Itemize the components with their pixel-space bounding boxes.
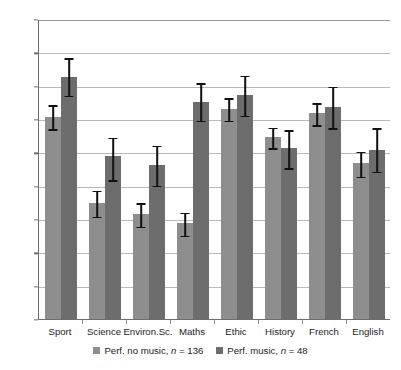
error-bar-cap-lower bbox=[49, 129, 58, 131]
bar bbox=[133, 214, 149, 319]
bar bbox=[89, 203, 105, 319]
x-axis-category-label: English bbox=[352, 326, 383, 337]
error-bar bbox=[272, 128, 274, 149]
x-axis-tick-mark bbox=[258, 320, 259, 324]
bar bbox=[221, 109, 237, 319]
legend-label: Perf. music, n = 48 bbox=[227, 345, 307, 356]
bar bbox=[309, 113, 325, 319]
error-bar-cap-lower bbox=[269, 148, 278, 150]
x-axis-category-label: Sport bbox=[49, 326, 72, 337]
error-bar-cap-lower bbox=[313, 125, 322, 127]
x-axis-category-label: Maths bbox=[179, 326, 205, 337]
error-bar-cap-upper bbox=[285, 130, 294, 132]
y-axis-tick-mark bbox=[34, 186, 38, 187]
y-axis-tick-mark bbox=[34, 219, 38, 220]
bar bbox=[281, 148, 297, 319]
error-bar-cap-lower bbox=[241, 116, 250, 118]
error-bar-cap-lower bbox=[329, 128, 338, 130]
gridline bbox=[39, 20, 390, 21]
bar bbox=[325, 107, 341, 320]
bar bbox=[237, 95, 253, 319]
error-bar-cap-upper bbox=[313, 103, 322, 105]
error-bar bbox=[288, 130, 290, 168]
error-bar-cap-lower bbox=[137, 227, 146, 229]
error-bar bbox=[156, 146, 158, 186]
plot-area bbox=[38, 20, 390, 320]
error-bar-cap-lower bbox=[225, 121, 234, 123]
x-axis-category-label: History bbox=[265, 326, 295, 337]
error-bar-cap-upper bbox=[197, 83, 206, 85]
error-bar-cap-lower bbox=[373, 172, 382, 174]
error-bar-cap-upper bbox=[153, 146, 162, 148]
error-bar-cap-upper bbox=[65, 58, 74, 60]
y-axis-tick-mark bbox=[34, 286, 38, 287]
x-axis-tick-mark bbox=[82, 320, 83, 324]
error-bar-cap-lower bbox=[153, 186, 162, 188]
legend-entry: Perf. no music, n = 136 bbox=[93, 345, 203, 356]
error-bar bbox=[332, 87, 334, 129]
x-axis-tick-mark bbox=[126, 320, 127, 324]
legend-swatch bbox=[216, 347, 223, 354]
bar bbox=[369, 150, 385, 319]
x-axis-tick-mark bbox=[214, 320, 215, 324]
error-bar-cap-upper bbox=[373, 128, 382, 130]
error-bar-cap-upper bbox=[241, 76, 250, 78]
error-bar bbox=[244, 76, 246, 116]
error-bar-cap-lower bbox=[285, 168, 294, 170]
chart-legend: Perf. no music, n = 136Perf. music, n = … bbox=[0, 345, 401, 356]
error-bar bbox=[96, 191, 98, 217]
y-axis-tick-mark bbox=[34, 19, 38, 20]
x-axis-tick-mark bbox=[346, 320, 347, 324]
error-bar-cap-lower bbox=[65, 96, 74, 98]
error-bar bbox=[68, 58, 70, 96]
error-bar-cap-lower bbox=[109, 180, 118, 182]
x-axis-tick-mark bbox=[302, 320, 303, 324]
bar bbox=[193, 102, 209, 320]
error-bar-cap-upper bbox=[137, 203, 146, 205]
x-axis-category-label: French bbox=[309, 326, 339, 337]
error-bar-cap-lower bbox=[181, 236, 190, 238]
bar-chart: 88.086.084.082.080.078.076.074.072.070.0… bbox=[0, 0, 401, 370]
error-bar-cap-lower bbox=[93, 217, 102, 219]
gridline bbox=[39, 53, 390, 54]
error-bar-cap-upper bbox=[181, 213, 190, 215]
bar bbox=[45, 117, 61, 320]
error-bar-cap-upper bbox=[329, 87, 338, 89]
error-bar bbox=[52, 105, 54, 129]
y-axis-tick-mark bbox=[34, 319, 38, 320]
error-bar-cap-upper bbox=[357, 152, 366, 154]
error-bar-cap-upper bbox=[93, 191, 102, 193]
bar bbox=[353, 163, 369, 319]
error-bar bbox=[140, 203, 142, 226]
bar bbox=[61, 77, 77, 320]
x-axis-category-label: Ethic bbox=[225, 326, 246, 337]
legend-label: Perf. no music, n = 136 bbox=[104, 345, 203, 356]
error-bar-cap-upper bbox=[109, 138, 118, 140]
error-bar bbox=[184, 213, 186, 236]
y-axis-tick-mark bbox=[34, 53, 38, 54]
y-axis-tick-mark bbox=[34, 253, 38, 254]
error-bar bbox=[316, 103, 318, 125]
error-bar bbox=[360, 152, 362, 177]
error-bar bbox=[376, 128, 378, 171]
legend-entry: Perf. music, n = 48 bbox=[216, 345, 307, 356]
error-bar-cap-lower bbox=[357, 177, 366, 179]
error-bar bbox=[112, 138, 114, 181]
error-bar bbox=[228, 98, 230, 121]
y-axis-tick-mark bbox=[34, 153, 38, 154]
error-bar-cap-lower bbox=[197, 121, 206, 123]
bar bbox=[265, 137, 281, 319]
x-axis-category-label: Science bbox=[87, 326, 121, 337]
bar bbox=[149, 165, 165, 319]
error-bar-cap-upper bbox=[225, 98, 234, 100]
error-bar-cap-upper bbox=[269, 128, 278, 130]
error-bar bbox=[200, 83, 202, 121]
error-bar-cap-upper bbox=[49, 105, 58, 107]
y-axis-tick-mark bbox=[34, 119, 38, 120]
legend-swatch bbox=[93, 347, 100, 354]
bar bbox=[177, 223, 193, 319]
x-axis-category-label: Environ.Sc. bbox=[123, 326, 172, 337]
y-axis-tick-mark bbox=[34, 86, 38, 87]
x-axis-tick-mark bbox=[170, 320, 171, 324]
